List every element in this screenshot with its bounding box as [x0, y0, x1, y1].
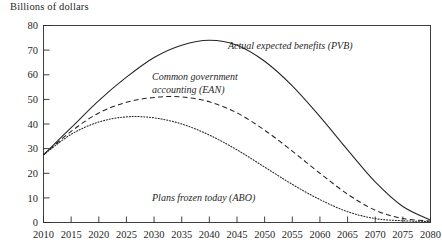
y-tick-label-70: 70 — [28, 45, 39, 56]
y-tick-label-40: 40 — [28, 119, 39, 130]
x-tick-label-2040: 2040 — [199, 229, 220, 240]
y-axis-labels: 0 10 20 30 40 50 60 70 80 — [28, 20, 39, 228]
y-tick-label-80: 80 — [28, 20, 39, 31]
chart-plot-area: 0 10 20 30 40 50 60 70 80 20102015202020… — [0, 0, 442, 249]
x-tick-label-2010: 2010 — [33, 229, 54, 240]
x-tick-label-2020: 2020 — [88, 229, 109, 240]
y-tick-label-0: 0 — [33, 217, 38, 228]
y-tick-label-10: 10 — [28, 193, 39, 204]
x-tick-label-2035: 2035 — [171, 229, 192, 240]
x-tick-label-2080: 2080 — [420, 229, 441, 240]
y-tick-label-20: 20 — [28, 168, 39, 179]
x-tick-label-2045: 2045 — [227, 229, 248, 240]
x-tick-label-2025: 2025 — [116, 229, 137, 240]
y-tick-label-60: 60 — [28, 69, 39, 80]
annotation-ean-line1: Common government — [152, 71, 238, 82]
y-axis-ticks — [44, 26, 50, 223]
x-tick-label-2055: 2055 — [282, 229, 303, 240]
series-line-abo — [44, 117, 431, 222]
y-tick-label-50: 50 — [28, 94, 39, 105]
annotation-ean-line2: accounting (EAN) — [152, 84, 225, 96]
x-tick-label-2030: 2030 — [144, 229, 165, 240]
x-axis-labels: 2010201520202025203020352040204520502055… — [33, 229, 441, 240]
x-tick-label-2065: 2065 — [337, 229, 358, 240]
y-tick-label-30: 30 — [28, 143, 39, 154]
annotation-pvb: Actual expected benefits (PVB) — [227, 40, 353, 52]
x-tick-label-2070: 2070 — [365, 229, 386, 240]
x-tick-label-2050: 2050 — [254, 229, 275, 240]
x-tick-label-2015: 2015 — [61, 229, 82, 240]
chart-figure: Billions of dollars 0 10 20 30 40 50 60 … — [0, 0, 442, 249]
x-tick-label-2060: 2060 — [309, 229, 330, 240]
annotation-abo: Plans frozen today (ABO) — [151, 192, 256, 204]
x-tick-label-2075: 2075 — [392, 229, 413, 240]
x-axis-ticks — [44, 217, 431, 223]
